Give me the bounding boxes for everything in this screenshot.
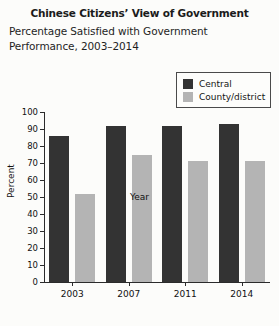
y-tick-label: 90: [27, 125, 38, 134]
y-tick-mark: [40, 214, 44, 215]
x-tick-label: 2007: [117, 290, 140, 299]
bar: [75, 194, 95, 282]
bar: [106, 126, 126, 282]
legend-swatch-icon: [183, 92, 193, 102]
chart-subtitle: Percentage Satisfied with Government Per…: [9, 24, 259, 54]
legend-swatch-icon: [183, 79, 193, 89]
y-tick-mark: [40, 231, 44, 232]
y-tick-label: 80: [27, 142, 38, 151]
y-tick-mark: [40, 265, 44, 266]
legend-item: County/district: [183, 90, 266, 103]
x-tick-label: 2014: [230, 290, 253, 299]
legend-item: Central: [183, 77, 266, 90]
x-tick-label: 2003: [61, 290, 84, 299]
bar: [219, 124, 239, 282]
bar: [132, 155, 152, 283]
y-tick-label: 10: [27, 261, 38, 270]
bar: [245, 161, 265, 282]
chart-legend: CentralCounty/district: [176, 72, 271, 108]
bar: [49, 136, 69, 282]
chart-title: Chinese Citizens’ View of Government: [0, 7, 279, 19]
x-tick-mark: [129, 282, 130, 286]
y-tick-mark: [40, 180, 44, 181]
y-tick-mark: [40, 112, 44, 113]
x-tick-mark: [242, 282, 243, 286]
y-tick-mark: [40, 146, 44, 147]
y-tick-label: 60: [27, 176, 38, 185]
chart-figure: Chinese Citizens’ View of Government Per…: [0, 0, 279, 326]
y-tick-label: 100: [22, 108, 38, 117]
bar: [188, 161, 208, 282]
y-tick-mark: [40, 282, 44, 283]
bar: [162, 126, 182, 282]
legend-label: Central: [199, 79, 232, 89]
x-tick-mark: [72, 282, 73, 286]
legend-label: County/district: [199, 92, 265, 102]
y-tick-label: 70: [27, 159, 38, 168]
y-tick-mark: [40, 163, 44, 164]
y-tick-label: 20: [27, 244, 38, 253]
y-tick-label: 40: [27, 210, 38, 219]
y-tick-label: 0: [33, 278, 38, 287]
x-tick-mark: [185, 282, 186, 286]
x-axis-title: Year: [0, 192, 279, 202]
x-axis-line: [44, 282, 270, 283]
y-tick-mark: [40, 248, 44, 249]
y-axis-title: Percent: [6, 164, 16, 198]
y-tick-mark: [40, 129, 44, 130]
x-tick-label: 2011: [174, 290, 197, 299]
y-tick-label: 30: [27, 227, 38, 236]
